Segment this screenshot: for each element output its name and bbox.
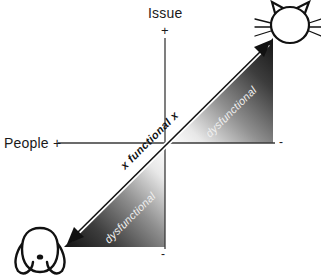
vertical-axis-positive-sign: +	[161, 24, 169, 37]
dog-icon	[15, 228, 64, 273]
vertical-axis-label: Issue	[148, 6, 182, 20]
horizontal-axis-label: People +	[4, 136, 61, 150]
vertical-axis-negative-sign: -	[161, 248, 165, 260]
diagram-canvas: Issue + - People + - x functional x dysf…	[0, 0, 321, 276]
cat-icon	[255, 2, 321, 43]
horizontal-axis-negative-sign: -	[279, 136, 283, 148]
